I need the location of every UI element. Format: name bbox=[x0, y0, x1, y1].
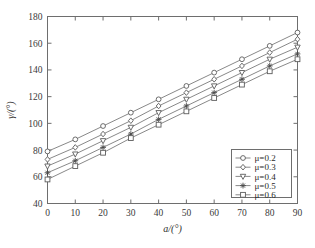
x-tick-label: 50 bbox=[182, 208, 192, 218]
marker-circle bbox=[241, 156, 246, 161]
x-tick-label: 90 bbox=[293, 208, 303, 218]
x-tick-label: 20 bbox=[98, 208, 108, 218]
marker-circle bbox=[73, 137, 78, 142]
x-axis-title: a/(°) bbox=[163, 223, 182, 235]
y-tick-label: 100 bbox=[28, 119, 43, 129]
marker-square bbox=[184, 109, 189, 114]
x-tick-label: 80 bbox=[265, 208, 275, 218]
marker-square bbox=[73, 164, 78, 169]
marker-circle bbox=[45, 149, 50, 154]
x-tick-label: 30 bbox=[126, 208, 136, 218]
marker-square bbox=[267, 69, 272, 74]
marker-circle bbox=[267, 43, 272, 48]
marker-circle bbox=[101, 124, 106, 129]
marker-square bbox=[212, 96, 217, 101]
y-tick-label: 160 bbox=[28, 39, 43, 49]
marker-square bbox=[101, 150, 106, 155]
y-tick-label: 180 bbox=[28, 12, 43, 22]
y-tick-label: 40 bbox=[33, 199, 43, 209]
y-tick-label: 140 bbox=[28, 65, 43, 75]
x-tick-label: 70 bbox=[237, 208, 247, 218]
y-tick-label: 60 bbox=[33, 172, 43, 182]
legend-label: μ=0.6 bbox=[255, 190, 277, 200]
x-tick-label: 0 bbox=[45, 208, 50, 218]
marker-square bbox=[295, 57, 300, 62]
chart-figure: 0102030405060708090406080100120140160180… bbox=[0, 0, 315, 248]
y-axis-title: γ/(°) bbox=[5, 101, 17, 119]
marker-circle bbox=[184, 84, 189, 89]
marker-circle bbox=[212, 70, 217, 75]
marker-square bbox=[241, 192, 246, 197]
x-tick-label: 40 bbox=[154, 208, 164, 218]
x-tick-label: 10 bbox=[71, 208, 81, 218]
marker-square bbox=[128, 136, 133, 141]
marker-circle bbox=[156, 97, 161, 102]
marker-square bbox=[45, 177, 50, 182]
marker-circle bbox=[295, 30, 300, 35]
y-tick-label: 120 bbox=[28, 92, 43, 102]
marker-square bbox=[156, 122, 161, 127]
legend: μ=0.2μ=0.3μ=0.4μ=0.5μ=0.6 bbox=[232, 150, 292, 201]
marker-square bbox=[240, 82, 245, 87]
marker-circle bbox=[240, 57, 245, 62]
y-tick-label: 80 bbox=[33, 146, 43, 156]
x-tick-label: 60 bbox=[209, 208, 219, 218]
marker-circle bbox=[128, 110, 133, 115]
line-chart: 0102030405060708090406080100120140160180… bbox=[0, 0, 315, 248]
